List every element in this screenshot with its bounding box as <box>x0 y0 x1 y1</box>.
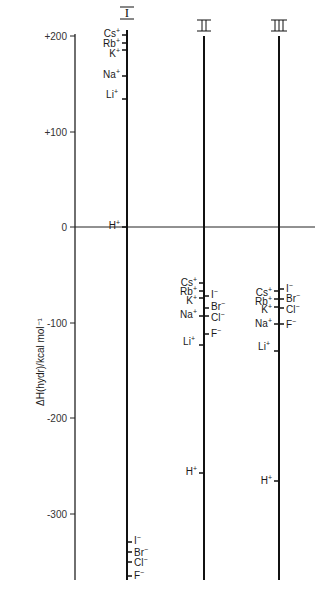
tick-label-plus100: +100 <box>44 127 67 138</box>
hydration-enthalpy-diagram: +200 +100 0 -100 -200 -300 ΔH(hydr)/kcal… <box>0 0 315 599</box>
label-k-III: K+ <box>261 303 272 315</box>
label-li-II: Li+ <box>183 335 195 347</box>
label-h-II: H+ <box>186 465 197 477</box>
label-cl-III: Cl− <box>286 303 300 315</box>
tick-label-minus100: -100 <box>47 318 67 329</box>
label-li-III: Li+ <box>258 340 270 352</box>
y-axis-ticks: +200 +100 0 -100 -200 -300 <box>44 31 75 520</box>
label-k-II: K+ <box>186 294 197 306</box>
column-I: I Cs+ Rb+ K+ Na+ Li+ H+ I− Br− Cl− F− <box>103 5 148 581</box>
label-na-III: Na+ <box>255 317 272 329</box>
column-III: III Cs+ Rb+ K+ Na+ Li+ I− Br− Cl− F− H+ <box>255 0 300 580</box>
label-h-III: H+ <box>261 474 272 486</box>
label-na-I: Na+ <box>103 68 120 80</box>
label-i-I: I− <box>134 534 141 546</box>
label-f-I: F− <box>134 569 144 581</box>
label-cl-II: Cl− <box>211 311 225 323</box>
label-na-II: Na+ <box>180 308 197 320</box>
tick-label-minus300: -300 <box>47 509 67 520</box>
tick-label-minus200: -200 <box>47 413 67 424</box>
label-cl-I: Cl− <box>134 556 148 568</box>
label-i-II: I− <box>211 288 218 300</box>
label-k-I: K+ <box>109 47 120 59</box>
label-li-I: Li+ <box>106 88 118 100</box>
tick-label-plus200: +200 <box>44 31 67 42</box>
y-axis-title: ΔH(hydr)/kcal mol⁻¹ <box>35 317 46 405</box>
column-II: II Cs+ Rb+ K+ Na+ Li+ I− Br− Cl− F− H+ <box>180 0 225 580</box>
label-f-II: F− <box>211 327 221 339</box>
tick-label-zero: 0 <box>61 222 67 233</box>
label-f-III: F− <box>286 318 296 330</box>
label-h-I: H+ <box>109 219 120 231</box>
